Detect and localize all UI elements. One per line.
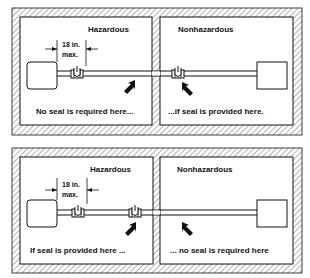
top-nonhazardous-label: Nonhazardous <box>178 25 234 34</box>
seal-placement-diagram: Hazardous Nonhazardous 18 in. max. No se… <box>0 0 310 278</box>
bottom-hazardous-label: Hazardous <box>90 165 131 174</box>
top-nonhazardous-enclosure <box>257 62 287 89</box>
bottom-left-caption: If seal is provided here ... <box>30 246 126 255</box>
svg-text:18 in.: 18 in. <box>62 181 80 188</box>
top-left-caption: No seal is required here... <box>36 107 133 116</box>
top-hazardous-enclosure <box>27 62 57 89</box>
svg-text:max.: max. <box>62 51 78 58</box>
top-right-caption: ...if seal is provided here. <box>168 107 264 116</box>
top-panel: Hazardous Nonhazardous 18 in. max. No se… <box>12 8 302 135</box>
bottom-hazardous-enclosure <box>27 200 57 227</box>
bottom-nonhazardous-label: Nonhazardous <box>177 165 233 174</box>
top-hazardous-label: Hazardous <box>88 25 129 34</box>
bottom-right-caption: ... no seal is required here <box>170 246 269 255</box>
svg-text:18 in.: 18 in. <box>62 41 80 48</box>
svg-text:max.: max. <box>62 191 78 198</box>
bottom-panel: Hazardous Nonhazardous 18 in. max. If se… <box>12 148 302 273</box>
bottom-nonhazardous-enclosure <box>257 200 287 227</box>
